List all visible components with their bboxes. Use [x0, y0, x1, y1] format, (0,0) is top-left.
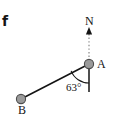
north-direction-label: N: [85, 15, 94, 27]
point-a-label: A: [97, 58, 106, 70]
panel-letter-label: f: [2, 14, 8, 28]
figure-canvas: f N A B 63°: [0, 0, 115, 127]
north-arrowhead-icon: [86, 27, 92, 34]
point-a-marker: [84, 59, 93, 68]
point-b-label: B: [18, 104, 26, 116]
bearing-angle-label: 63°: [66, 82, 81, 93]
